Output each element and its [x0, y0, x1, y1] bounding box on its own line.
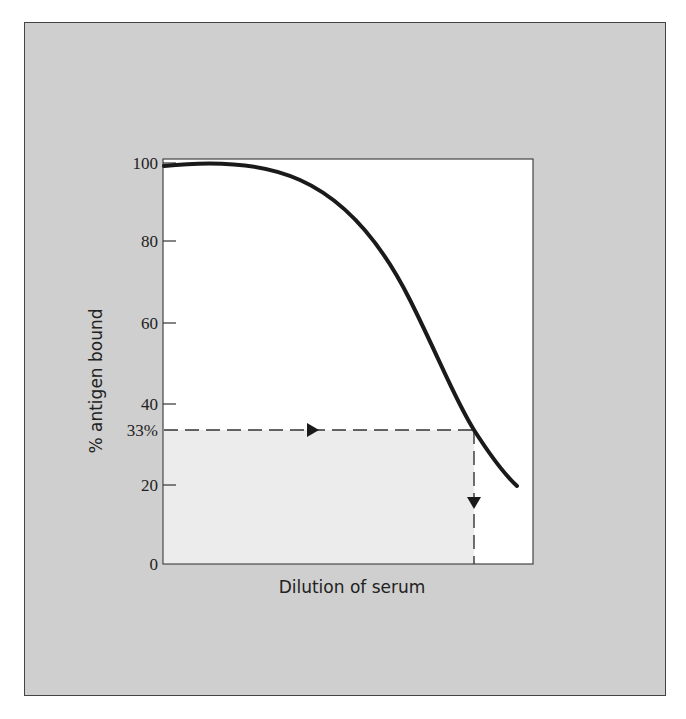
- chart: 100 80 60 40 33% 20 0 % antigen bound Di…: [0, 0, 686, 719]
- y-marker-label-33: 33%: [127, 421, 158, 440]
- y-tick-label-100: 100: [133, 154, 159, 173]
- y-tick-label-60: 60: [141, 314, 158, 333]
- y-tick-label-20: 20: [141, 476, 158, 495]
- x-axis-title: Dilution of serum: [279, 577, 426, 597]
- y-axis-title: % antigen bound: [86, 308, 106, 453]
- y-tick-label-0: 0: [150, 555, 159, 574]
- y-tick-label-40: 40: [141, 395, 158, 414]
- shaded-region: [164, 430, 474, 563]
- y-tick-label-80: 80: [141, 232, 158, 251]
